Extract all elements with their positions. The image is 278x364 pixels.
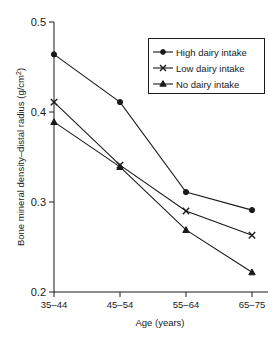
x-tick-label: 55–64 (173, 299, 199, 310)
y-axis-title-text: Bone mineral density–distal radius (g/cm (15, 75, 26, 246)
data-point-filled-circle (183, 190, 188, 195)
x-tick-label: 65–75 (239, 299, 265, 310)
chart-page: Bone mineral density–distal radius (g/cm… (0, 0, 278, 364)
legend: High dairy intake Low dairy intake No da… (149, 39, 265, 94)
legend-label: No dairy intake (176, 79, 239, 90)
line-chart: Bone mineral density–distal radius (g/cm… (0, 0, 278, 364)
svg-text:Bone mineral density–distal ra: Bone mineral density–distal radius (g/cm… (15, 68, 26, 246)
legend-label: Low dairy intake (176, 63, 245, 74)
data-point-x-cross (183, 208, 189, 214)
x-axis-title: Age (years) (135, 317, 184, 328)
data-point-filled-circle (117, 100, 122, 105)
series-line (54, 122, 252, 272)
y-axis-title: Bone mineral density–distal radius (g/cm… (15, 68, 26, 246)
y-tick-label: 0.3 (31, 196, 46, 208)
data-point-filled-triangle (249, 269, 255, 275)
series-no-dairy-intake (51, 119, 255, 275)
data-point-filled-triangle (51, 119, 57, 125)
series-line (54, 102, 252, 235)
filled-circle-icon (161, 50, 166, 55)
y-tick-label: 0.4 (31, 106, 46, 118)
y-tick-label: 0.2 (31, 286, 46, 298)
series-low-dairy-intake (51, 99, 255, 239)
data-point-filled-circle (249, 208, 254, 213)
data-point-filled-circle (51, 52, 56, 57)
data-point-x-cross (249, 232, 255, 238)
x-axis-ticks: 35–44 45–54 55–64 65–75 (41, 292, 265, 310)
x-tick-label: 45–54 (107, 299, 133, 310)
legend-label: High dairy intake (176, 47, 247, 58)
y-axis-ticks: 0.5 0.4 0.3 0.2 (31, 16, 54, 298)
y-tick-label: 0.5 (31, 16, 46, 28)
x-tick-label: 35–44 (41, 299, 67, 310)
y-axis-title-tail: ) (15, 68, 26, 71)
